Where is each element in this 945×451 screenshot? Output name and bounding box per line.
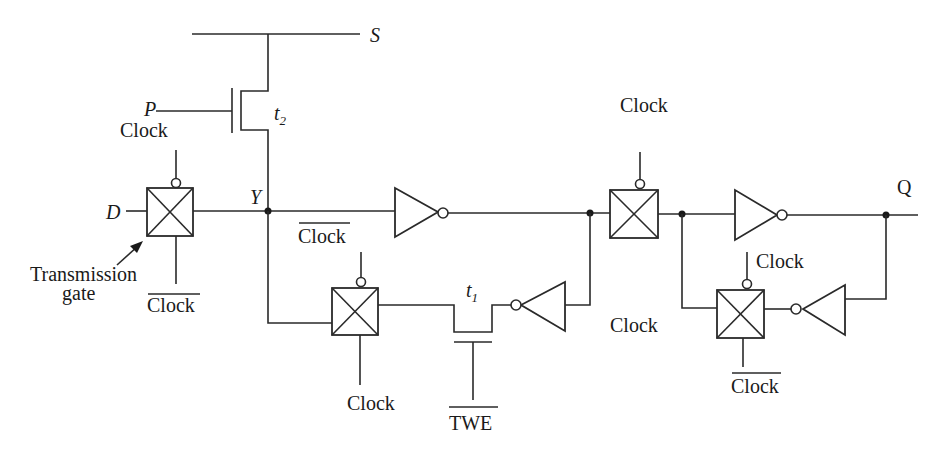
p-label: P [143, 98, 156, 120]
d-label: D [105, 201, 121, 223]
inverter-4 [791, 285, 845, 335]
tg3-clock-label: Clock [347, 392, 395, 414]
inverter-1 [395, 188, 448, 237]
y-label: Y [250, 186, 263, 208]
tg4-clock-bar-label: Clock [731, 375, 779, 397]
tg3-clock-bar-label: Clock [298, 225, 346, 247]
tg2-clock-label: Clock [620, 94, 668, 116]
t1-label: t1 [466, 279, 478, 305]
s-label: S [370, 24, 380, 46]
annotation-arrow-icon [117, 241, 143, 265]
q-label: Q [897, 176, 912, 198]
flip-flop-schematic: S P t2 D Clock Clock Transmission gate Y… [0, 0, 945, 451]
tg1-clock-bar-label: Clock [147, 294, 195, 316]
twe-bar-label: TWE [449, 412, 492, 434]
transmission-gate-2 [610, 152, 658, 238]
t2-label: t2 [274, 102, 287, 128]
transmission-gate-1 [147, 150, 193, 284]
inverter-2 [511, 282, 565, 331]
transmission-gate-3 [332, 252, 378, 385]
tg4-clock-label: Clock [756, 250, 804, 272]
tg2-clock-bottom-label: Clock [610, 314, 658, 336]
inverter-3 [735, 190, 787, 240]
annotation-gate: gate [62, 282, 95, 305]
tg1-clock-label: Clock [120, 119, 168, 141]
transistor-t1 [378, 305, 511, 400]
